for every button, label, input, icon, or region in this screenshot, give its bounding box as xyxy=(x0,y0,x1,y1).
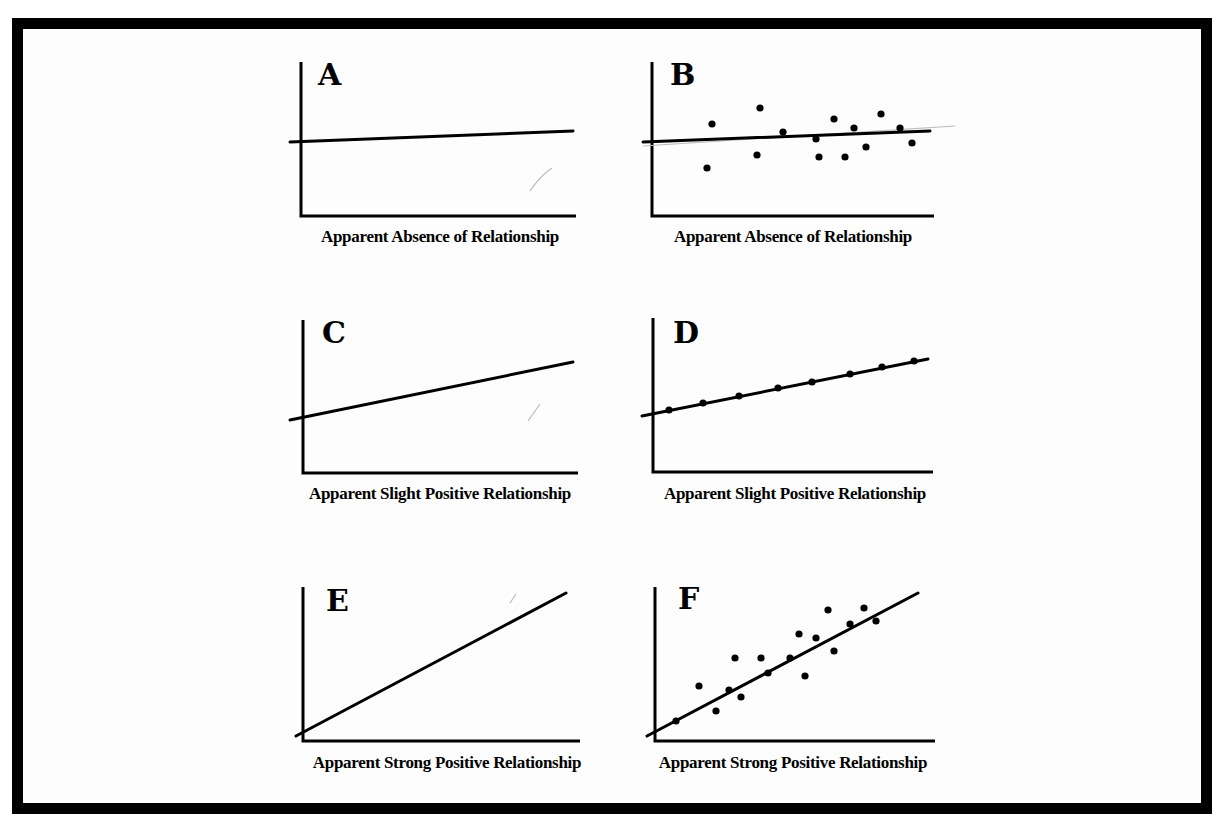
panel-caption-f: Apparent Strong Positive Relationship xyxy=(659,753,927,772)
panel-caption-b: Apparent Absence of Relationship xyxy=(674,227,912,246)
panel-letter-c: C xyxy=(322,315,346,350)
panel-letter-f: F xyxy=(678,581,699,616)
trend-line-c xyxy=(290,362,573,420)
panel-c: C Apparent Slight Positive Relationship xyxy=(290,315,578,503)
panel-caption-c: Apparent Slight Positive Relationship xyxy=(309,484,571,503)
stray-mark-c xyxy=(528,404,540,421)
trend-line-a xyxy=(290,131,573,142)
panel-letter-e: E xyxy=(326,583,349,618)
panel-a: A Apparent Absence of Relationship xyxy=(290,57,576,246)
panel-d: D Apparent Slight Positive Relationship xyxy=(642,315,933,503)
panel-e: E Apparent Strong Positive Relationship xyxy=(296,583,581,772)
figure-canvas: A Apparent Absence of Relationship B App… xyxy=(0,0,1220,820)
panel-letter-b: B xyxy=(670,57,695,92)
panel-caption-e: Apparent Strong Positive Relationship xyxy=(313,753,581,772)
panel-f: F Apparent Strong Positive Relationship xyxy=(647,581,935,772)
panel-letter-a: A xyxy=(317,57,342,92)
panel-b: B Apparent Absence of Relationship xyxy=(643,57,955,246)
panel-caption-a: Apparent Absence of Relationship xyxy=(321,227,559,246)
stray-mark-e xyxy=(510,594,516,603)
panel-caption-d: Apparent Slight Positive Relationship xyxy=(664,484,926,503)
stray-mark-a xyxy=(530,168,552,191)
panel-letter-d: D xyxy=(673,315,699,350)
